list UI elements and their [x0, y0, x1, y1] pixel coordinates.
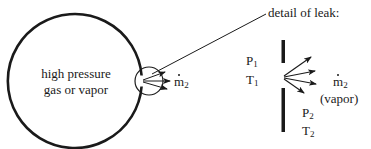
downstream-temperature-label: T2	[302, 124, 314, 137]
detail-title: detail of leak:	[268, 6, 339, 19]
vessel-label-line1: high pressure	[34, 66, 118, 82]
temperature-subscript: 2	[310, 129, 315, 139]
vessel-label: high pressure gas or vapor	[34, 66, 118, 98]
temperature-symbol: T	[302, 123, 310, 138]
pressure-subscript: 2	[309, 111, 314, 121]
vessel-label-line2: gas or vapor	[34, 82, 118, 98]
outflow-label: m2	[333, 75, 348, 88]
pressure-subscript: 1	[253, 59, 258, 69]
detail-jet-arrows	[284, 57, 316, 93]
upstream-pressure-label: P1	[246, 54, 258, 67]
upstream-temperature-label: T1	[246, 73, 258, 86]
outflow-subscript: 2	[343, 80, 348, 90]
outflow-symbol: m	[333, 75, 343, 88]
leak-flow-label: m2	[174, 75, 189, 88]
downstream-pressure-label: P2	[302, 106, 314, 119]
orifice-wall	[282, 40, 286, 132]
leak-jet-arrows	[143, 72, 170, 89]
outflow-phase-label: (vapor)	[320, 92, 358, 105]
mass-flow-symbol: m	[174, 75, 184, 88]
temperature-subscript: 1	[254, 78, 259, 88]
mass-flow-subscript: 2	[184, 80, 189, 90]
temperature-symbol: T	[246, 72, 254, 87]
